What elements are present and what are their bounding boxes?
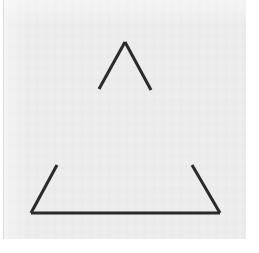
triangle-segment-bottom-right-leg bbox=[192, 165, 220, 213]
screenshot-root bbox=[0, 0, 259, 253]
incomplete-triangle-figure bbox=[4, 0, 246, 239]
triangle-segment-group bbox=[31, 42, 220, 213]
image-panel bbox=[4, 0, 246, 239]
triangle-segment-apex-right-leg bbox=[125, 42, 151, 90]
triangle-segment-apex-left-leg bbox=[99, 42, 125, 89]
triangle-segment-bottom-left-leg bbox=[31, 165, 57, 213]
panel-left-rule bbox=[3, 0, 4, 239]
